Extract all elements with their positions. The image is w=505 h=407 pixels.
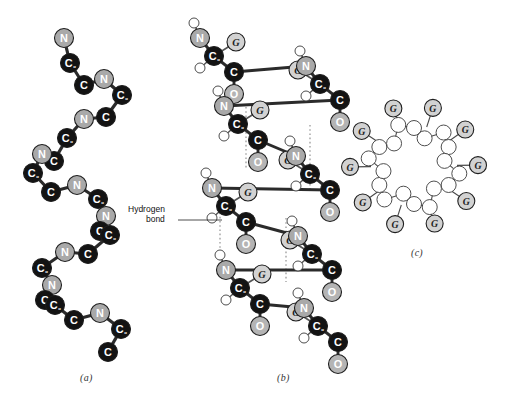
atom-label: G [244, 187, 252, 198]
atom-nitrogen [295, 299, 314, 318]
atom-nitrogen [217, 261, 236, 280]
atom-alpha-carbon [205, 47, 224, 66]
bond [212, 188, 330, 190]
atom-nitrogen [68, 176, 87, 195]
atom-alpha-carbon [112, 320, 131, 339]
panel-a-svg: NCαCNCαCNCαCNCαCNCαNCCαCNCαNCCαCNCαC [0, 0, 175, 375]
atom-alpha-carbon [61, 54, 80, 73]
atom-hydrogen [295, 46, 305, 56]
atom-carbon [329, 333, 348, 352]
atom-nitrogen [75, 110, 94, 129]
atom-alpha-carbon [58, 129, 77, 148]
atom-ring-atom [441, 178, 456, 193]
bond [224, 100, 340, 106]
atom-label: G [392, 219, 399, 230]
atom-hydrogen [189, 18, 199, 28]
atom-ring-atom [426, 181, 441, 196]
atom-alpha-carbon [309, 317, 328, 336]
atom-carbon [75, 76, 94, 95]
panel-b-atoms: OGNCαCOGNCαCOGNCαCOGNCαCOGNCαCOGNCαCOGNC… [189, 18, 350, 374]
atom-alpha-carbon [303, 245, 322, 264]
atom-hydrogen [219, 131, 229, 141]
atom-nitrogen [191, 29, 210, 48]
atom-alpha-carbon [89, 190, 108, 209]
panel-a-caption: (a) [80, 372, 93, 383]
panel-b-caption: (b) [277, 372, 290, 383]
atom-carbon [237, 213, 256, 232]
atom-ring-atom [372, 140, 387, 155]
atom-hydrogen [215, 250, 225, 260]
atom-carbon [42, 183, 61, 202]
atom-label: G [359, 197, 366, 208]
atom-hydrogen [285, 136, 295, 146]
atom-oxygen [251, 317, 270, 336]
atom-alpha-carbon [301, 165, 320, 184]
atom-alpha-carbon [229, 115, 248, 134]
atom-label: G [346, 162, 353, 173]
atom-carbon [99, 343, 118, 362]
atom-oxygen [323, 283, 342, 302]
atom-oxygen [329, 355, 348, 374]
panel-a-backbone: NCαCNCαCNCαCNCαCNCαNCCαCNCαNCCαCNCαC [0, 0, 175, 375]
atom-ring-atom [437, 153, 452, 168]
atom-ring-atom [436, 125, 451, 140]
atom-label: G [463, 196, 470, 207]
atom-hydrogen [299, 333, 309, 343]
atom-nitrogen [91, 304, 110, 323]
atom-hydrogen [293, 261, 303, 271]
atom-hydrogen [293, 288, 303, 298]
panel-c-caption: (c) [411, 247, 423, 258]
atom-carbon [97, 108, 116, 127]
atom-alpha-carbon [101, 226, 120, 245]
atom-hydrogen [287, 216, 297, 226]
atom-ring-atom [396, 186, 411, 201]
atom-label: G [429, 103, 436, 114]
atom-hydrogen [195, 63, 205, 73]
atom-oxygen [237, 235, 256, 254]
atom-carbon [225, 63, 244, 82]
atom-alpha-carbon [33, 259, 52, 278]
atom-label: G [431, 218, 438, 229]
atom-hydrogen [201, 168, 211, 178]
atom-nitrogen [56, 243, 75, 262]
atom-hydrogen [221, 295, 231, 305]
atom-nitrogen [289, 227, 308, 246]
atom-ring-atom [452, 166, 467, 181]
atom-carbon [249, 131, 268, 150]
hydrogen-bond-leader [168, 200, 238, 230]
atom-carbon [251, 295, 270, 314]
atom-label: G [232, 37, 240, 48]
atom-nitrogen [33, 145, 52, 164]
atom-alpha-carbon [113, 86, 132, 105]
panel-c-svg: GGGGGGGGGG [330, 88, 505, 258]
atom-label: G [474, 160, 481, 171]
atom-oxygen [249, 153, 268, 172]
atom-alpha-carbon [311, 75, 330, 94]
atom-hydrogen [301, 91, 311, 101]
hydrogen-bond-annotation: Hydrogen bond [128, 205, 165, 224]
atom-ring-atom [372, 178, 387, 193]
panel-c-axial: GGGGGGGGGG [330, 88, 505, 258]
atom-label: G [358, 126, 365, 137]
atom-hydrogen [213, 86, 223, 96]
atom-ring-atom [387, 136, 402, 151]
atom-ring-atom [377, 192, 392, 207]
atom-label: G [258, 269, 266, 280]
panel-a-atoms: NCαCNCαCNCαCNCαCNCαNCCαCNCαNCCαCNCαC [24, 29, 132, 362]
hydrogen-bond-line2: bond [128, 215, 165, 225]
atom-ring-atom [422, 200, 437, 215]
atom-ring-atom [376, 164, 391, 179]
atom-nitrogen [203, 179, 222, 198]
atom-ring-atom [361, 151, 376, 166]
panel-c-atoms: GGGGGGGGGG [342, 99, 487, 232]
atom-nitrogen [215, 97, 234, 116]
atom-nitrogen [297, 57, 316, 76]
figure-alpha-helix: NCαCNCαCNCαCNCαCNCαNCCαCNCαNCCαCNCαC (a)… [0, 0, 505, 407]
atom-carbon [323, 261, 342, 280]
atom-label: G [462, 124, 469, 135]
atom-alpha-carbon [46, 296, 65, 315]
atom-hydrogen [291, 181, 301, 191]
atom-nitrogen [287, 147, 306, 166]
atom-alpha-carbon [24, 164, 43, 183]
atom-alpha-carbon [231, 279, 250, 298]
